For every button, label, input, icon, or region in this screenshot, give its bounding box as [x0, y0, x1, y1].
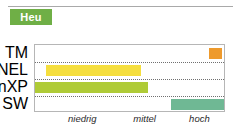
bar-row-nel: [35, 62, 224, 79]
category-badge-label: Heu: [20, 12, 41, 23]
y-axis-tick-label: NEL: [0, 61, 28, 79]
y-axis-tick-label: SW: [2, 95, 28, 113]
bar-nel: [46, 65, 141, 76]
y-axis-tick-label: TM: [5, 44, 28, 62]
plot-area: [35, 45, 224, 111]
y-axis-tick-sw: SW: [0, 95, 28, 112]
y-axis-labels: TM NEL nXP SW: [0, 44, 31, 112]
bar-row-tm: [35, 45, 224, 62]
y-axis-tick-nxp: nXP: [0, 78, 28, 95]
x-axis-tick-hoch: hoch: [189, 114, 210, 124]
category-badge: Heu: [10, 9, 52, 25]
bar-sw: [171, 99, 224, 110]
chart-plot-frame: [34, 44, 225, 112]
bar-tm: [209, 48, 222, 59]
header-divider: [8, 6, 233, 7]
chart-page: Heu TM NEL nXP SW: [0, 0, 239, 133]
bar-row-nxp: [35, 79, 224, 96]
bar-nxp: [35, 82, 148, 93]
x-axis-tick-niedrig: niedrig: [68, 114, 97, 124]
x-axis-labels: niedrig mittel hoch: [34, 114, 225, 130]
x-axis-tick-mittel: mittel: [133, 114, 156, 124]
y-axis-tick-nel: NEL: [0, 61, 28, 78]
bar-row-sw: [35, 96, 224, 113]
y-axis-tick-label: nXP: [0, 78, 28, 96]
y-axis-tick-tm: TM: [0, 44, 28, 61]
